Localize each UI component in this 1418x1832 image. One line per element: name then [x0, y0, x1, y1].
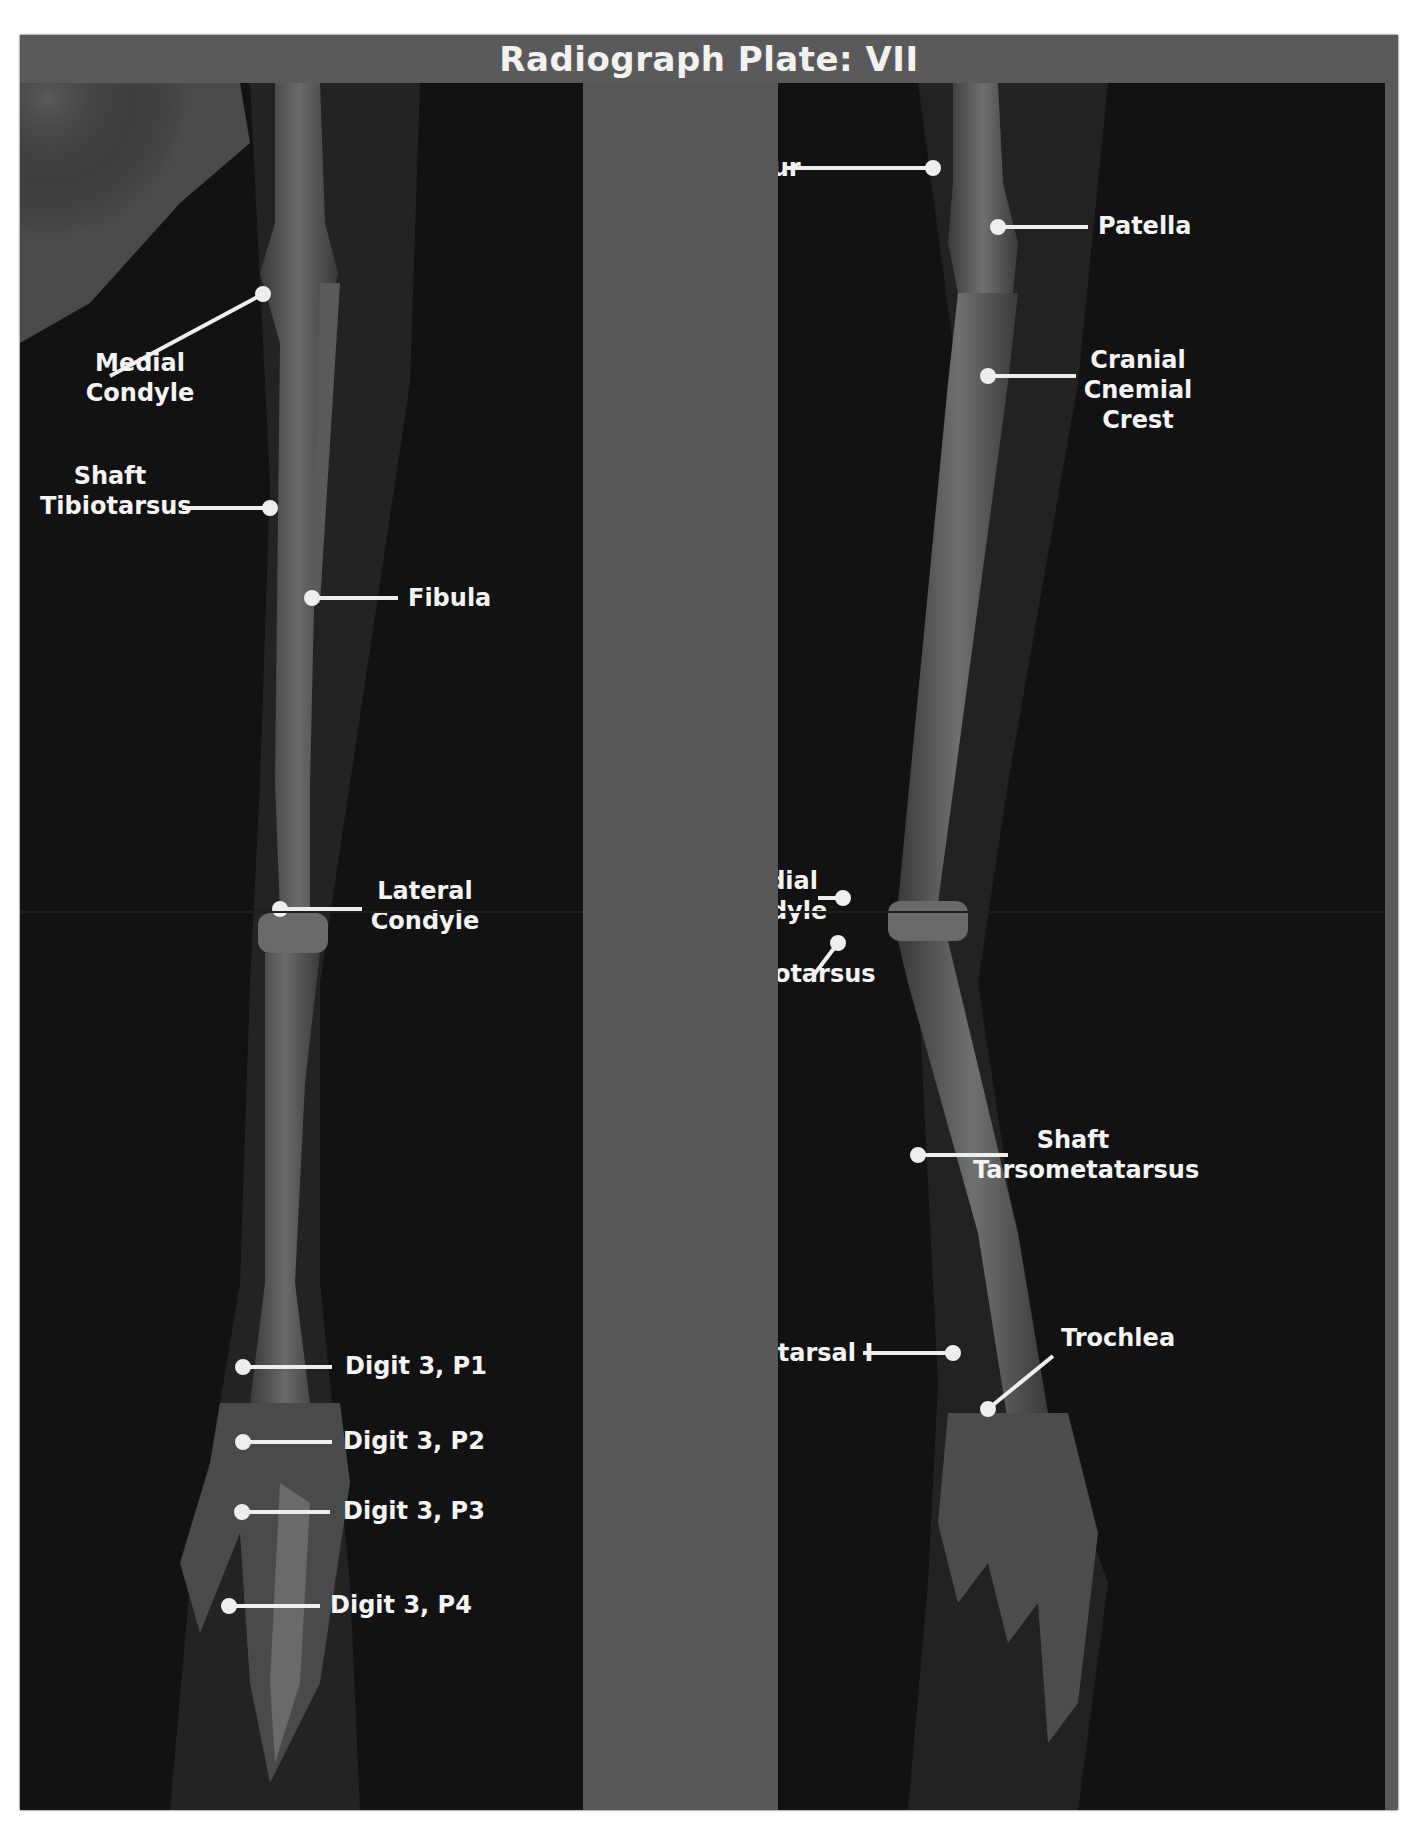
label-metatarsal-i: Metatarsal I — [778, 1338, 873, 1368]
label-cranial-cnemial-crest: CranialCnemialCrest — [1078, 345, 1198, 435]
label-shaft-tarsometatarsus: ShaftTarsometatarsus — [973, 1125, 1173, 1185]
label-hypotarsus: Hypotarsus — [778, 959, 876, 989]
center-gray-strip — [583, 83, 778, 1810]
right-radiograph-panel: Femur Patella CranialCnemialCrest Medial… — [778, 83, 1385, 1810]
left-xray-image — [20, 83, 583, 1810]
label-fibula: Fibula — [408, 583, 491, 613]
label-trochlea: Trochlea — [1061, 1323, 1175, 1353]
label-lateral-condyle: LateralCondyle — [365, 876, 485, 936]
label-medial-condyle-right: MedialCondyle — [778, 866, 833, 926]
film-seam — [20, 911, 583, 913]
label-digit3-p3: Digit 3, P3 — [343, 1496, 485, 1526]
label-medial-condyle: MedialCondyle — [60, 348, 220, 408]
label-shaft-tibiotarsus: ShaftTibiotarsus — [40, 461, 180, 521]
right-xray-image — [778, 83, 1385, 1810]
radiograph-plate: Radiograph Plate: VII — [20, 35, 1398, 1810]
label-digit3-p1: Digit 3, P1 — [345, 1351, 487, 1381]
film-seam — [778, 911, 1385, 913]
left-radiograph-panel: MedialCondyle ShaftTibiotarsus Fibula La… — [20, 83, 583, 1810]
plate-title: Radiograph Plate: VII — [20, 35, 1398, 83]
label-femur: Femur — [778, 153, 801, 183]
label-digit3-p4: Digit 3, P4 — [330, 1590, 472, 1620]
label-digit3-p2: Digit 3, P2 — [343, 1426, 485, 1456]
label-patella: Patella — [1098, 211, 1192, 241]
